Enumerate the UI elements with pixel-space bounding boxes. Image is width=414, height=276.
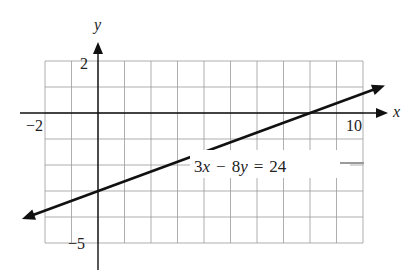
equation-label: 3x−8y=24: [194, 157, 287, 176]
gridline-fragment: [340, 162, 364, 164]
y-axis-arrow-icon: [93, 42, 103, 54]
y-min-tick-label: −5: [68, 235, 85, 252]
coordinate-plane: 3x−8y=24 x y −2 10 2 −5: [0, 0, 414, 276]
line-right-arrow-icon: [371, 85, 385, 95]
x-axis-label: x: [392, 103, 400, 120]
x-min-tick-label: −2: [26, 117, 43, 134]
y-axis-label: y: [92, 16, 102, 34]
x-axis-arrow-icon: [376, 108, 388, 118]
y-axis: [93, 42, 103, 270]
x-max-tick-label: 10: [346, 117, 362, 134]
line-left-arrow-icon: [22, 209, 36, 219]
y-max-tick-label: 2: [80, 55, 88, 72]
